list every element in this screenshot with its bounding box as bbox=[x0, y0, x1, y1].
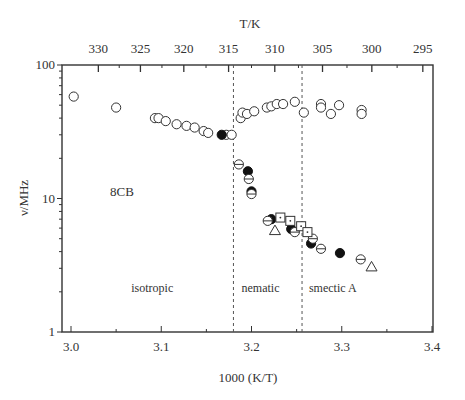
open-circle-marker bbox=[316, 103, 325, 112]
top-tick-label: 305 bbox=[313, 41, 333, 56]
top-tick-label: 325 bbox=[131, 41, 151, 56]
top-tick-label: 315 bbox=[219, 41, 239, 56]
open-circle-marker bbox=[172, 120, 181, 129]
open-circle-marker bbox=[357, 109, 366, 118]
data-points bbox=[69, 92, 377, 271]
open-circle-marker bbox=[227, 130, 236, 139]
phase-label: isotropic bbox=[131, 281, 173, 295]
phase-label: smectic A bbox=[309, 281, 357, 295]
x-tick-label: 3.1 bbox=[153, 339, 169, 354]
x-tick-label: 3.3 bbox=[334, 339, 350, 354]
top-tick-label: 330 bbox=[89, 41, 109, 56]
open-circle-marker bbox=[204, 128, 213, 137]
open-circle-marker bbox=[278, 99, 287, 108]
y-tick-label: 100 bbox=[36, 57, 56, 72]
y-axis-label: ν/MHz bbox=[16, 180, 31, 216]
open-triangle-marker bbox=[269, 225, 280, 235]
filled-circle-marker bbox=[335, 248, 344, 257]
open-circle-marker bbox=[69, 92, 78, 101]
square-center-dot bbox=[300, 225, 302, 227]
open-circle-marker bbox=[182, 121, 191, 130]
axis-ticks: 3.03.13.23.33.41101003303253203153103053… bbox=[36, 41, 441, 354]
top-tick-label: 320 bbox=[174, 41, 194, 56]
filled-circle-marker bbox=[217, 130, 226, 139]
x-tick-label: 3.4 bbox=[424, 339, 441, 354]
square-center-dot bbox=[289, 220, 291, 222]
top-tick-label: 300 bbox=[362, 41, 382, 56]
plot-svg: T/K 1000 (K/T) ν/MHz 8CB 3.03.13.23.33.4… bbox=[0, 0, 465, 400]
open-circle-marker bbox=[326, 109, 335, 118]
open-triangle-marker bbox=[366, 261, 377, 271]
square-center-dot bbox=[279, 217, 281, 219]
sample-label: 8CB bbox=[110, 184, 134, 199]
open-circle-marker bbox=[250, 107, 259, 116]
phase-label: nematic bbox=[242, 281, 280, 295]
chart: T/K 1000 (K/T) ν/MHz 8CB 3.03.13.23.33.4… bbox=[0, 0, 465, 400]
square-center-dot bbox=[307, 231, 309, 233]
x-axis-label: 1000 (K/T) bbox=[219, 370, 278, 385]
open-circle-marker bbox=[299, 108, 308, 117]
top-axis-label: T/K bbox=[240, 16, 262, 31]
top-tick-label: 310 bbox=[265, 41, 285, 56]
x-tick-label: 3.0 bbox=[63, 339, 79, 354]
open-circle-marker bbox=[112, 103, 121, 112]
open-circle-marker bbox=[334, 101, 343, 110]
open-circle-marker bbox=[190, 123, 199, 132]
x-tick-label: 3.2 bbox=[243, 339, 259, 354]
top-tick-label: 295 bbox=[413, 41, 433, 56]
open-circle-marker bbox=[161, 116, 170, 125]
y-tick-label: 1 bbox=[49, 324, 56, 339]
y-tick-label: 10 bbox=[42, 191, 55, 206]
open-circle-marker bbox=[290, 97, 299, 106]
